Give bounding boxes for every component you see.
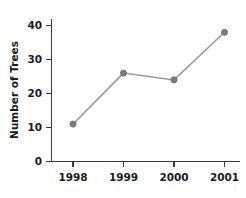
x-tick-label-1999: 1999 [109, 171, 138, 183]
y-tick-label-30: 30 [27, 53, 42, 65]
line-chart: 0 10 20 30 40 1998 1999 2000 2001 Number… [0, 0, 246, 198]
y-tick-label-0: 0 [35, 155, 42, 167]
y-tick-label-10: 10 [27, 121, 42, 133]
y-tick-label-40: 40 [27, 19, 42, 31]
y-tick-label-20: 20 [27, 87, 42, 99]
data-point-2001 [221, 29, 227, 35]
chart-canvas: 0 10 20 30 40 1998 1999 2000 2001 Number… [0, 0, 246, 198]
x-tick-label-1998: 1998 [58, 171, 87, 183]
data-point-1999 [120, 70, 126, 76]
data-point-1998 [70, 121, 76, 127]
x-tick-label-2000: 2000 [159, 171, 188, 183]
data-point-2000 [171, 77, 177, 83]
y-axis-title: Number of Trees [8, 41, 20, 139]
x-tick-label-2001: 2001 [210, 171, 239, 183]
